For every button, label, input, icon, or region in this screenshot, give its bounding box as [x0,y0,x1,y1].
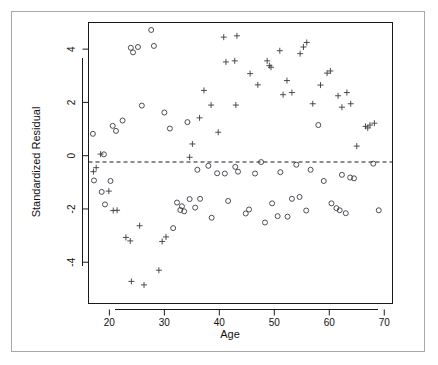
data-point-plus [197,115,203,121]
y-tick-label: 4 [66,46,77,52]
x-tick-label: 70 [379,317,391,328]
data-point-circle [343,211,348,216]
x-tick-label: 60 [324,317,336,328]
data-point-plus [163,234,169,240]
data-point-circle [162,110,167,115]
plot-panel-box [89,23,393,304]
data-point-circle [171,226,176,231]
data-point-circle [222,171,227,176]
data-point-plus [277,48,283,54]
data-point-circle [187,197,192,202]
data-point-circle [149,27,154,32]
y-axis-label: Standardized Residual [30,107,42,218]
data-point-plus [335,93,341,99]
data-point-plus [221,34,227,40]
data-point-circle [329,201,334,206]
data-point-plus [156,267,162,273]
data-point-circle [113,128,118,133]
x-tick-label: 20 [104,317,116,328]
data-point-circle [151,43,156,48]
data-point-plus [348,101,354,107]
data-point-circle [175,200,180,205]
data-point-plus [106,188,112,194]
data-point-plus [187,154,193,160]
data-point-plus [289,90,295,96]
y-tick-label: -4 [66,257,77,266]
data-point-circle [209,215,214,220]
data-point-circle [215,171,220,176]
data-point-plus [208,102,214,108]
data-point-plus [280,92,286,98]
data-point-circle [102,202,107,207]
data-point-plus [141,282,147,288]
data-point-circle [376,208,381,213]
data-point-circle [195,167,200,172]
data-point-circle [193,205,198,210]
y-tick-label: 2 [66,99,77,105]
data-point-circle [308,167,313,172]
data-point-circle [120,118,125,123]
data-point-circle [206,163,211,168]
x-tick-label: 40 [214,317,226,328]
data-point-plus [114,207,120,213]
x-tick-label: 50 [269,317,281,328]
data-point-circle [90,131,95,136]
data-point-circle [289,196,294,201]
data-point-circle [185,120,190,125]
data-point-plus [93,165,99,171]
data-point-plus [255,82,261,88]
data-point-circle [135,45,140,50]
x-tick-label: 30 [159,317,171,328]
data-point-circle [247,207,252,212]
data-point-plus [233,102,239,108]
data-point-plus [247,71,253,77]
data-point-circle [316,123,321,128]
data-point-plus [223,59,229,65]
data-point-plus [344,90,350,96]
data-point-plus [90,169,96,175]
data-point-circle [304,208,309,213]
data-point-plus [123,234,129,240]
data-point-circle [270,201,275,206]
y-tick-label: -2 [66,204,77,213]
data-points-layer [90,27,381,287]
data-point-plus [339,104,345,110]
data-point-plus [234,33,240,39]
data-point-plus [232,58,238,64]
data-point-circle [226,198,231,203]
data-point-circle [278,170,283,175]
data-point-plus [128,278,134,284]
data-point-circle [99,189,104,194]
x-axis-label: Age [220,328,240,340]
data-point-plus [159,238,165,244]
data-point-circle [297,194,302,199]
figure-root: -4-2024 203040506070 Age Standardized Re… [0,0,438,365]
data-point-circle [92,178,97,183]
data-point-circle [131,50,136,55]
data-point-plus [215,129,221,135]
data-point-plus [304,39,310,45]
x-axis-ticks: 203040506070 [104,310,390,329]
data-point-plus [127,238,133,244]
data-point-plus [284,78,290,84]
data-point-plus [354,143,360,149]
data-point-plus [297,51,303,57]
data-point-circle [275,214,280,219]
data-point-circle [108,178,113,183]
data-point-circle [110,123,115,128]
data-point-plus [317,82,323,88]
data-point-plus [137,223,143,229]
data-point-plus [189,141,195,147]
data-point-circle [167,126,172,131]
data-point-circle [339,172,344,177]
data-point-circle [285,214,290,219]
data-point-circle [294,162,299,167]
data-point-circle [233,164,238,169]
data-point-circle [371,161,376,166]
data-point-circle [139,103,144,108]
data-point-circle [236,169,241,174]
y-tick-label: 0 [66,152,77,158]
y-axis-ticks: -4-2024 [66,46,89,267]
data-point-circle [321,178,326,183]
data-point-circle [198,196,203,201]
